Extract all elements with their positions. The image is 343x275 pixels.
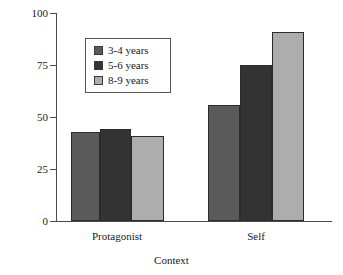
legend-item-5-6-years[interactable]: 5-6 years [94, 58, 164, 73]
y-tick-label-25-wrap: 25 [0, 164, 48, 175]
x-axis-line [56, 221, 332, 222]
legend-label-8-9-years: 8-9 years [108, 75, 149, 86]
bar-self-8-9-years [272, 32, 304, 221]
y-tick-label-100-wrap: 100 [0, 8, 48, 19]
y-tick-50 [50, 117, 56, 118]
y-tick-100 [50, 13, 56, 14]
y-tick-label-25: 25 [4, 164, 48, 175]
bar-self-3-4-years [208, 105, 240, 221]
y-tick-label-0-wrap: 0 [0, 216, 48, 227]
y-tick-label-0: 0 [4, 216, 48, 227]
y-tick-label-50: 50 [4, 112, 48, 123]
x-axis-label: Context [0, 254, 343, 267]
bar-protagonist-8-9-years [131, 136, 164, 221]
category-label-self: Self [206, 230, 306, 243]
legend-label-3-4-years: 3-4 years [108, 45, 149, 56]
legend-item-8-9-years[interactable]: 8-9 years [94, 73, 164, 88]
y-axis-line [56, 13, 57, 222]
legend-swatch-icon-3-4-years [94, 46, 103, 55]
y-tick-25 [50, 169, 56, 170]
y-tick-label-100: 100 [4, 8, 48, 19]
bar-self-5-6-years [240, 65, 272, 221]
y-tick-label-75: 75 [4, 60, 48, 71]
legend-swatch-icon-8-9-years [94, 76, 103, 85]
bar-chart: 100 75 50 25 0 Protagonist Self Context … [0, 0, 343, 275]
bar-protagonist-3-4-years [71, 132, 100, 221]
bar-protagonist-5-6-years [100, 129, 131, 221]
y-tick-label-50-wrap: 50 [0, 112, 48, 123]
y-tick-75 [50, 65, 56, 66]
legend-item-3-4-years[interactable]: 3-4 years [94, 43, 164, 58]
legend-swatch-icon-5-6-years [94, 61, 103, 70]
y-tick-0 [50, 221, 56, 222]
category-label-protagonist: Protagonist [67, 230, 167, 243]
legend: 3-4 years 5-6 years 8-9 years [85, 38, 171, 93]
y-tick-label-75-wrap: 75 [0, 60, 48, 71]
legend-label-5-6-years: 5-6 years [108, 60, 149, 71]
